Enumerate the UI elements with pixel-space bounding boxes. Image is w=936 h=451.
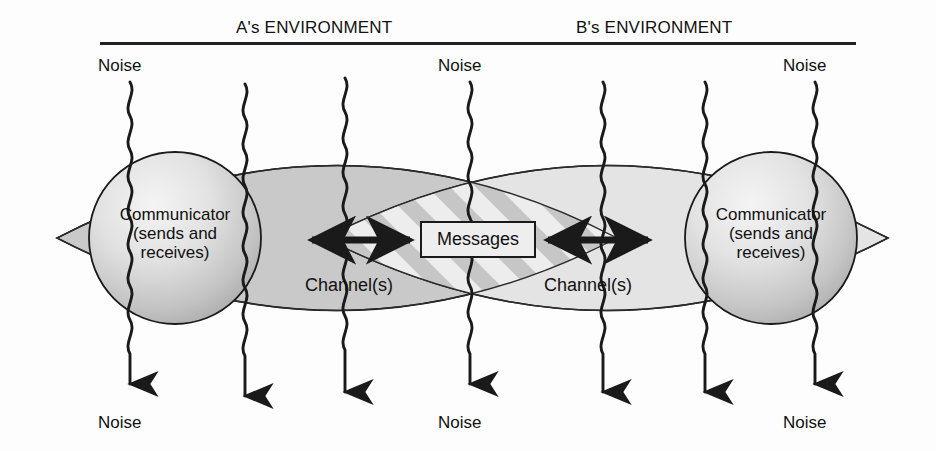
communication-model-diagram: A's ENVIRONMENT B's ENVIRONMENT Noise No… [0, 0, 936, 451]
header-right-environment: B's ENVIRONMENT [576, 18, 732, 38]
header-left-environment: A's ENVIRONMENT [236, 18, 392, 38]
communicator-a-label: Communicator (sends and receives) [95, 205, 255, 262]
communicator-b-line2: (sends and [691, 224, 851, 243]
noise-label-bottom-left: Noise [98, 413, 141, 433]
noise-label-bottom-right: Noise [783, 413, 826, 433]
communicator-a-line2: (sends and [95, 224, 255, 243]
communicator-a-line1: Communicator [95, 205, 255, 224]
noise-label-top-left: Noise [98, 56, 141, 76]
channel-label-right: Channel(s) [544, 275, 632, 296]
noise-label-top-right: Noise [783, 56, 826, 76]
messages-box-label: Messages [437, 229, 519, 250]
messages-box: Messages [420, 221, 536, 258]
communicator-b-line1: Communicator [691, 205, 851, 224]
communicator-b-label: Communicator (sends and receives) [691, 205, 851, 262]
noise-label-bottom-center: Noise [438, 413, 481, 433]
communicator-a-line3: receives) [95, 243, 255, 262]
channel-label-left: Channel(s) [305, 275, 393, 296]
noise-label-top-center: Noise [438, 56, 481, 76]
communicator-b-line3: receives) [691, 243, 851, 262]
